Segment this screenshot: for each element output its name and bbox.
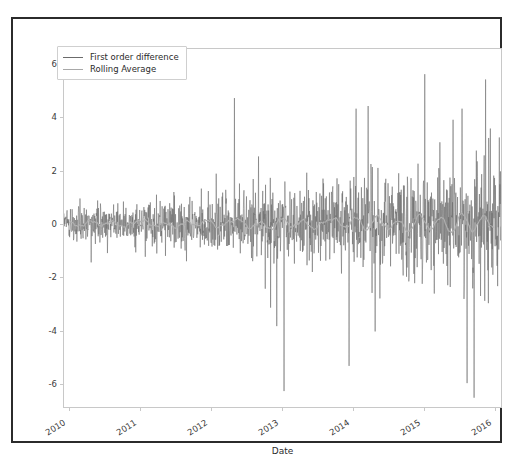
x-tick-label: 2012 <box>185 417 209 437</box>
series-first-order-difference <box>64 74 501 398</box>
legend-item-first-order-difference: First order difference <box>63 51 179 63</box>
x-tick-mark <box>495 408 496 411</box>
x-tick-mark <box>211 408 212 411</box>
y-tick-label: 4 <box>52 112 57 122</box>
y-tick-label: 0 <box>52 219 57 229</box>
x-tick-label: 2011 <box>114 417 138 437</box>
plot-canvas <box>64 49 501 407</box>
legend-label-rolling-average: Rolling Average <box>90 63 156 75</box>
y-tick-label: -2 <box>49 272 57 282</box>
x-tick-mark <box>424 408 425 411</box>
y-tick-label: -4 <box>49 326 57 336</box>
y-tick-label: -6 <box>49 379 57 389</box>
y-tick-label: 2 <box>52 166 57 176</box>
x-tick-label: 2015 <box>398 417 422 437</box>
y-axis-tick-labels: 6420-2-4-6 <box>35 48 57 408</box>
chart-screenshot: 6420-2-4-6 2010201120122013201420152016 … <box>0 0 513 458</box>
x-tick-label: 2014 <box>327 417 351 437</box>
x-tick-label: 2013 <box>256 417 280 437</box>
chart-legend: First order difference Rolling Average <box>57 46 187 80</box>
figure-frame: 6420-2-4-6 2010201120122013201420152016 … <box>11 17 502 443</box>
x-axis-tick-labels: 2010201120122013201420152016 <box>63 408 502 448</box>
x-tick-mark <box>282 408 283 411</box>
legend-label-first-order-difference: First order difference <box>90 51 179 63</box>
x-axis-label: Date <box>63 446 502 456</box>
legend-swatch-rolling-average <box>63 69 83 70</box>
legend-item-rolling-average: Rolling Average <box>63 63 179 75</box>
x-tick-label: 2010 <box>43 417 67 437</box>
plot-axes <box>63 48 502 408</box>
x-tick-mark <box>353 408 354 411</box>
x-tick-mark <box>69 408 70 411</box>
x-tick-mark <box>140 408 141 411</box>
x-tick-label: 2016 <box>469 417 493 437</box>
legend-swatch-first-order-difference <box>63 57 83 58</box>
